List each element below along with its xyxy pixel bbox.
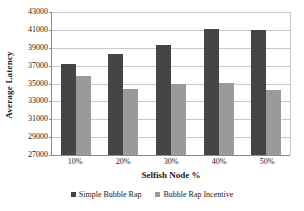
y-axis-tick-label: 31000 [16,115,48,123]
y-axis-title-label: Average Latency [4,51,14,119]
legend-item: Simple Bubble Rap [71,190,142,199]
bar-series-2 [171,84,186,156]
x-axis-tick-label: 50% [250,157,284,166]
legend-label: Bubble Rap Incentive [163,190,233,199]
bar-group [156,12,186,155]
bar-chart: Average Latency 430004100039000370003500… [0,0,304,211]
bar-series-2 [76,76,91,155]
gridline [52,155,290,156]
bar-series-1 [108,54,123,155]
y-axis-tick-label: 35000 [16,80,48,88]
plot-area [51,12,291,155]
bar-series-2 [123,89,138,155]
bar-group [251,12,281,155]
bar-series-1 [61,64,76,155]
legend-item: Bubble Rap Incentive [155,190,233,199]
x-axis-tick-label: 30% [154,157,188,166]
x-axis-tick-labels: 10%20%30%40%50% [51,157,291,166]
y-axis-tick-label: 27000 [16,151,48,159]
bar-series-1 [204,29,219,155]
legend-swatch-icon [155,192,160,197]
bar-group [108,12,138,155]
bar-group [204,12,234,155]
y-axis-tick-label: 41000 [16,26,48,34]
bar-series-2 [266,90,281,155]
bar-groups [52,12,290,155]
y-axis-tick-label: 33000 [16,97,48,105]
chart-legend: Simple Bubble RapBubble Rap Incentive [0,190,304,199]
y-axis-tick-label: 43000 [16,8,48,16]
y-axis-tick-mark [49,155,52,156]
x-axis-tick-label: 10% [58,157,92,166]
y-axis-tick-label: 37000 [16,62,48,70]
legend-label: Simple Bubble Rap [79,190,142,199]
x-axis-tick-label: 20% [106,157,140,166]
bar-series-2 [219,83,234,155]
y-axis-tick-label: 29000 [16,133,48,141]
y-axis-tick-labels: 4300041000390003700035000330003100029000… [16,12,48,155]
bar-series-1 [251,30,266,155]
x-axis-title: Selfish Node % [51,170,291,180]
legend-swatch-icon [71,192,76,197]
bar-group [61,12,91,155]
bar-series-1 [156,45,171,155]
x-axis-tick-label: 40% [202,157,236,166]
y-axis-tick-label: 39000 [16,44,48,52]
